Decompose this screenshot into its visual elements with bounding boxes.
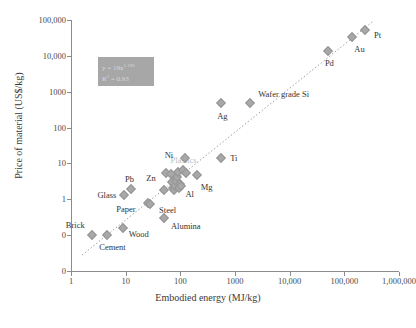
data-point-label: Zn	[146, 174, 155, 183]
data-point-label: Paper	[116, 205, 135, 214]
data-point-label: Pt	[374, 31, 381, 40]
data-point-label: Ag	[217, 112, 227, 121]
equation-text: y = 19x1.196	[102, 62, 135, 72]
data-point-label: Mg	[201, 183, 213, 192]
data-point-label: Wafer grade Si	[258, 90, 309, 99]
data-point-label: Brick	[66, 221, 85, 230]
data-point-label: Pd	[325, 59, 334, 68]
data-point-label: Glass	[97, 191, 116, 200]
data-point-label: Cement	[99, 243, 125, 252]
data-point-label: Ti	[230, 154, 237, 163]
r-squared-text: R2 = 0.93	[102, 73, 129, 83]
data-point-label: Wood	[129, 230, 149, 239]
data-point-label: Al	[185, 190, 194, 199]
data-point-label: Au	[354, 45, 364, 54]
data-point-label: Alumina	[171, 222, 201, 231]
data-point-label: Ni	[165, 151, 174, 160]
embodied-energy-price-scatter-chart: 100,00010,000100010010100 110100100010,0…	[0, 0, 416, 328]
data-point-label: Pb	[125, 175, 134, 184]
